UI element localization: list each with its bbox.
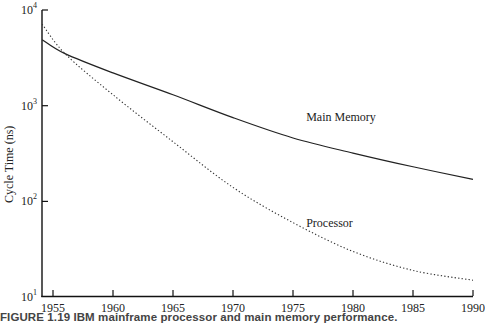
y-ticks: 101102103104	[21, 1, 48, 304]
y-tick-label: 103	[21, 97, 37, 113]
y-axis-title: Cycle Time (ns)	[2, 126, 16, 203]
x-tick-label: 1990	[461, 301, 485, 315]
main-memory-line	[42, 40, 473, 180]
series-labels: Main MemoryProcessor	[306, 110, 376, 230]
y-tick-label: 102	[21, 192, 37, 208]
axes	[41, 10, 473, 297]
svg-text:Cycle Time (ns): Cycle Time (ns)	[2, 126, 16, 203]
main-memory-label: Main Memory	[306, 110, 376, 124]
series-lines	[42, 24, 473, 280]
x-tick-label: 1985	[401, 301, 425, 315]
figure-caption: FIGURE 1.19 IBM mainframe processor and …	[0, 311, 398, 323]
processor-line	[42, 24, 473, 280]
y-tick-label: 104	[21, 1, 37, 17]
y-tick-label: 101	[21, 288, 37, 304]
chart: Cycle Time (ns) 101102103104 19551960196…	[0, 0, 485, 326]
processor-label: Processor	[306, 216, 353, 230]
